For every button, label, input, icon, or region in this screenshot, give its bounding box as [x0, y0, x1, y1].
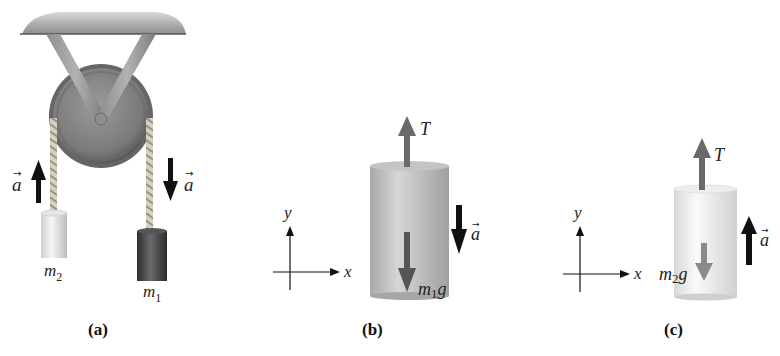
- mass-m1: [137, 228, 167, 281]
- vector-arrow-left-icon: →: [13, 168, 21, 179]
- tension-label-c: T: [714, 145, 726, 165]
- caption-a: (a): [88, 320, 108, 339]
- accel-arrow-b: [451, 205, 467, 254]
- axis-y-label-c: y: [572, 203, 582, 222]
- vector-arrow-right-icon: →: [185, 168, 193, 179]
- pulley-axle: [95, 113, 107, 125]
- accel-arrow-c: [741, 216, 757, 265]
- axis-y-label-b: y: [282, 203, 292, 222]
- tension-arrow-b: [398, 116, 416, 167]
- ceiling: [22, 12, 186, 34]
- vector-arrow-c-icon: →: [761, 225, 769, 235]
- rope-left: [50, 118, 57, 214]
- panel-c: y x T m2g a → (c): [563, 138, 769, 339]
- diagram-canvas: a → a → m2 m1 (a) y x: [0, 0, 780, 356]
- panel-b: y x T m1g a → (b): [273, 116, 480, 339]
- accel-arrow-up-left: [31, 160, 46, 203]
- axes-b: y x: [273, 203, 352, 290]
- vector-arrow-b-icon: →: [472, 219, 480, 229]
- axis-x-label-c: x: [633, 264, 642, 283]
- tension-label-b: T: [420, 119, 432, 139]
- caption-b: (b): [362, 320, 383, 339]
- panel-a: a → a → m2 m1 (a): [12, 12, 194, 339]
- weight-label-c: m2g: [659, 264, 688, 286]
- mass-m2: [41, 210, 67, 258]
- axis-x-label-b: x: [343, 262, 352, 281]
- rope-right: [146, 118, 153, 232]
- mass-label-m2: m2: [44, 261, 62, 284]
- caption-c: (c): [664, 320, 683, 339]
- axes-c: y x: [563, 203, 642, 292]
- mass-label-m1: m1: [143, 282, 161, 305]
- tension-arrow-c: [693, 138, 711, 190]
- atwood-machine-diagram: a → a → m2 m1 (a) y x: [0, 0, 780, 356]
- accel-arrow-down-right: [163, 158, 178, 201]
